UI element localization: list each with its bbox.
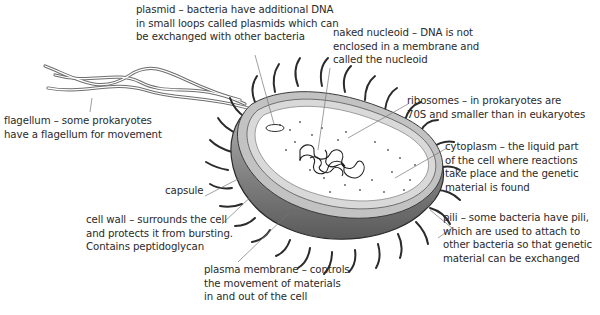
label-line: plasma membrane – controls — [204, 263, 350, 277]
label-line: plasmid – bacteria have additional DNA — [136, 3, 339, 17]
label-line: the movement of materials — [204, 277, 350, 291]
label-cell-wall: cell wall – surrounds the cell and prote… — [86, 213, 233, 254]
label-line: and protects it from bursting. — [86, 227, 233, 241]
label-line: capsule — [165, 184, 203, 198]
label-line: which are used to attach to — [443, 225, 592, 239]
label-line: other bacteria so that genetic — [443, 238, 592, 252]
label-line: of the cell where reactions — [445, 154, 579, 168]
label-line: Contains peptidoglycan — [86, 240, 233, 254]
label-naked-nucleoid: naked nucleoid – DNA is not enclosed in … — [333, 26, 479, 67]
label-cytoplasm: cytoplasm – the liquid part of the cell … — [445, 140, 579, 194]
label-line: be exchanged with other bacteria — [136, 30, 339, 44]
label-line: flagellum – some prokaryotes — [4, 114, 162, 128]
label-line: in and out of the cell — [204, 290, 350, 304]
label-line: 70S and smaller than in eukaryotes — [407, 108, 585, 122]
label-line: pili – some bacteria have pili, — [443, 211, 592, 225]
label-ribosomes: ribosomes – in prokaryotes are 70S and s… — [407, 94, 585, 121]
label-line: naked nucleoid – DNA is not — [333, 26, 479, 40]
label-line: material is found — [445, 181, 579, 195]
label-line: material can be exchanged — [443, 252, 592, 266]
label-capsule: capsule — [165, 184, 203, 198]
label-flagellum: flagellum – some prokaryotes have a flag… — [4, 114, 162, 141]
label-line: enclosed in a membrane and — [333, 40, 479, 54]
label-line: cytoplasm – the liquid part — [445, 140, 579, 154]
label-line: have a flagellum for movement — [4, 128, 162, 142]
label-line: cell wall – surrounds the cell — [86, 213, 233, 227]
label-line: ribosomes – in prokaryotes are — [407, 94, 585, 108]
label-line: take place and the genetic — [445, 167, 579, 181]
label-plasma-membrane: plasma membrane – controls the movement … — [204, 263, 350, 304]
label-line: called the nucleoid — [333, 53, 479, 67]
label-plasmid: plasmid – bacteria have additional DNA i… — [136, 3, 339, 44]
label-pili: pili – some bacteria have pili, which ar… — [443, 211, 592, 265]
label-line: in small loops called plasmids which can — [136, 17, 339, 31]
